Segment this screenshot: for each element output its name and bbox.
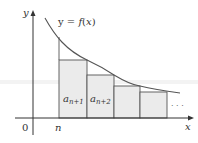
rect-3 <box>114 86 140 118</box>
x-axis-label: x <box>185 121 191 132</box>
origin-label: 0 <box>22 122 28 133</box>
series-remainder-diagram: y x 0 n y = f(x) an+1 an+2 · · · <box>0 0 198 143</box>
rect-4 <box>140 92 167 118</box>
rectangles <box>59 60 167 118</box>
y-axis-label: y <box>22 7 29 18</box>
n-label: n <box>55 122 61 133</box>
rect-1 <box>59 60 87 118</box>
y-axis-arrow-icon <box>31 10 36 16</box>
curve-label: y = f(x) <box>57 16 96 27</box>
x-axis-arrow-icon <box>188 116 194 121</box>
ellipsis: · · · <box>171 101 184 110</box>
